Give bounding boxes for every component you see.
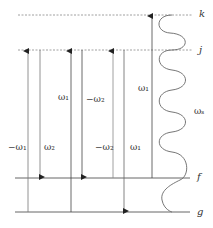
arrow-label: ω₁ [130, 142, 141, 152]
level-label-f: f [197, 171, 201, 182]
arrow-label: −ω₂ [95, 142, 114, 152]
level-label-k: k [199, 8, 205, 19]
diagram-canvas [0, 0, 213, 228]
arrow-label: ω₂ [44, 142, 55, 152]
signal-wave [159, 15, 187, 212]
level-label-g: g [197, 206, 203, 217]
level-label-j: j [199, 44, 202, 55]
wave-label: ωₛ [194, 106, 204, 116]
arrow-label: −ω₂ [86, 94, 105, 104]
arrow-label: −ω₁ [8, 142, 27, 152]
energy-level-diagram: −ω₁ ω₂ ω₁ −ω₂ −ω₂ ω₁ ω₁ ωₛ k j f g [0, 0, 213, 228]
arrow-label: ω₁ [138, 83, 149, 93]
arrow-label: ω₁ [58, 92, 69, 102]
